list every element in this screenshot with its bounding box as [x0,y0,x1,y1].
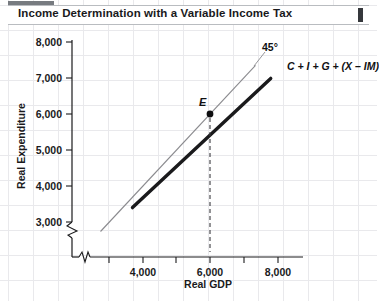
y-tick-label-7000: 7,000 [0,72,62,84]
y-axis-ticks [66,42,72,222]
x-tick-label-4000: 4,000 [113,266,173,278]
series-label-45-degree: 45° [262,41,278,53]
equilibrium-point-marker [207,111,214,118]
x-axis-ticks [109,257,278,263]
x-axis-title: Real GDP [148,278,268,290]
y-axis-break-symbol [67,222,77,238]
title-bar: Income Determination with a Variable Inc… [0,0,377,30]
y-tick-label-8000: 8,000 [0,36,62,48]
y-tick-label-3000: 3,000 [0,216,62,228]
y-tick-label-6000: 6,000 [0,108,62,120]
series-45-degree-line [101,65,256,231]
y-tick-label-5000: 5,000 [0,144,62,156]
title-end-marker [358,8,363,22]
x-tick-label-6000: 6,000 [180,266,240,278]
y-tick-label-4000: 4,000 [0,180,62,192]
x-axis-break-symbol [79,252,90,262]
y-axis-title: Real Expenditure [15,91,27,201]
series-label-expenditure: C + I + G + (X – IM) [287,60,379,72]
equilibrium-point-label: E [199,96,206,108]
x-tick-label-8000: 8,000 [248,266,308,278]
page-title: Income Determination with a Variable Inc… [18,7,292,19]
label-leader-45 [254,52,265,66]
